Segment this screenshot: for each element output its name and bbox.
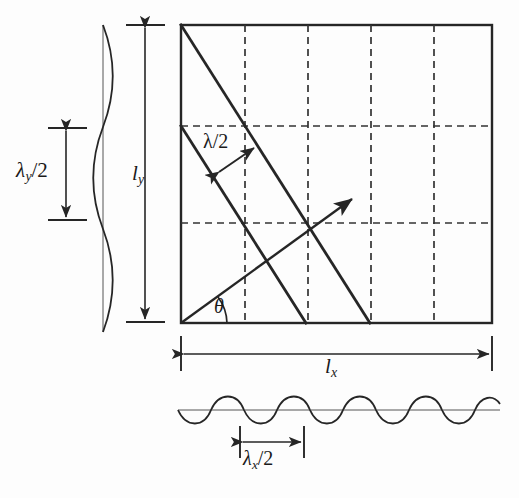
label-l-x: lx	[325, 356, 337, 380]
figure-root: λy/2 ly λ/2 θ lx λx/2	[0, 0, 519, 498]
label-lambda-half: λ/2	[203, 131, 228, 151]
wave-mode-diagram	[0, 0, 519, 498]
vertical-standing-wave	[93, 25, 113, 332]
l-y-glyph: l	[132, 161, 138, 185]
lambda-y-glyph: λ	[16, 158, 25, 182]
cavity-box	[181, 25, 492, 323]
label-lambda-x-half: λx/2	[243, 448, 273, 471]
wavefront-lines	[181, 25, 370, 323]
wavefront-line-1	[181, 25, 370, 323]
label-lambda-y-half: λy/2	[16, 160, 48, 184]
label-l-y: ly	[132, 163, 144, 187]
horizontal-standing-wave	[178, 397, 500, 424]
k-vector-arrow	[181, 199, 352, 323]
dashed-grid	[181, 25, 492, 323]
lambda-x-glyph: λ	[243, 447, 252, 469]
lambda-y-tail: /2	[32, 158, 48, 182]
lambda-y-half-dimension	[48, 128, 87, 220]
l-x-subscript: x	[331, 365, 337, 380]
theta-glyph: θ	[214, 295, 224, 317]
lambda-x-tail: /2	[258, 447, 274, 469]
l-y-subscript: y	[138, 172, 144, 187]
k-vector-group	[181, 199, 352, 323]
l-x-glyph: l	[325, 354, 331, 378]
label-theta: θ	[214, 296, 224, 316]
